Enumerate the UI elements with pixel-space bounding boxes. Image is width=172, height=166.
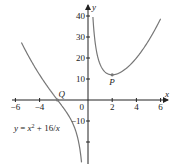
equation-label: y = x2 + 16/x: [13, 123, 60, 133]
point-p-label: P: [108, 77, 115, 87]
x-tick-label: 2: [110, 102, 115, 112]
y-tick-label: 10: [76, 74, 86, 84]
x-tick-label: 4: [134, 102, 139, 112]
y-tick-label: 30: [76, 32, 86, 42]
y-tick-label: −10: [71, 116, 86, 126]
curve-left-branch: [21, 43, 81, 163]
y-tick-label: 20: [76, 53, 86, 63]
x-tick-label: −4: [35, 102, 45, 112]
curve-right-branch: [93, 17, 161, 75]
point-q-label: Q: [59, 89, 66, 99]
chart: xy−6−424640302010−100QPy = x2 + 16/x: [0, 0, 172, 166]
origin-label: 0: [80, 102, 85, 112]
x-tick-label: 6: [158, 102, 163, 112]
y-tick-label: 40: [76, 11, 86, 21]
x-tick-label: −6: [11, 102, 21, 112]
x-axis-label: x: [164, 89, 169, 99]
y-axis-label: y: [91, 2, 96, 12]
